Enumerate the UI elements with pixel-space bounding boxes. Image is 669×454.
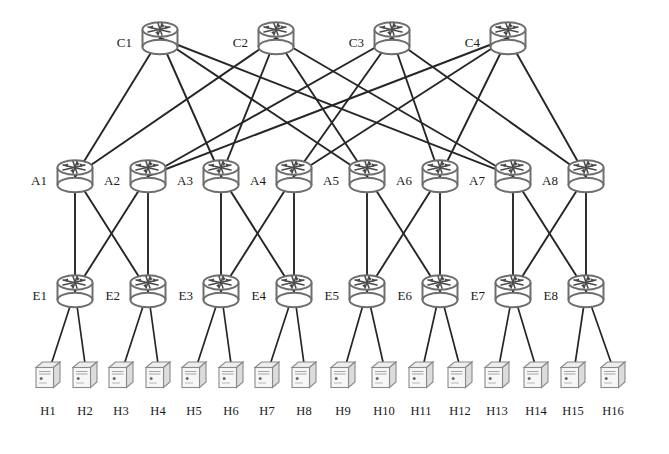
host-label: H5 [186,404,201,418]
edge-switch-label: E1 [33,288,47,303]
edge-switch-label: E6 [398,288,413,303]
host-label: H10 [373,404,395,418]
core-switch-label: C2 [233,35,248,50]
core-switch-label: C3 [349,35,364,50]
core-switch-label: C1 [117,35,132,50]
host-icon [524,362,548,388]
host-label: H14 [525,404,547,418]
edge-switch-label: E4 [252,288,267,303]
aggregation-switch-label: A6 [396,173,412,188]
host-icon [182,362,206,388]
host-icon [219,362,243,388]
aggregation-switch-label: A7 [469,173,485,188]
host-label: H7 [259,404,274,418]
aggregation-switch-label: A5 [323,173,339,188]
host-label: H9 [335,404,350,418]
host-icon [36,362,60,388]
core-switch-label: C4 [465,35,481,50]
host-label: H6 [223,404,238,418]
aggregation-switch-label: A2 [104,173,120,188]
edge-switch-label: E2 [106,288,120,303]
host-icon [409,362,433,388]
host-label: H3 [113,404,128,418]
host-label: H16 [602,404,624,418]
host-icon [561,362,585,388]
host-icon [372,362,396,388]
aggregation-switch-label: A1 [31,173,47,188]
edge-switch-label: E7 [471,288,486,303]
edge-switch-label: E3 [179,288,193,303]
aggregation-switch-label: A4 [250,173,266,188]
host-label: H2 [77,404,92,418]
host-label: H11 [410,404,431,418]
host-label: H8 [296,404,311,418]
host-icon [331,362,355,388]
edge-switch-label: E5 [325,288,339,303]
host-icon [109,362,133,388]
host-label: H4 [150,404,166,418]
host-icon [73,362,97,388]
host-icon [601,362,625,388]
host-icon [255,362,279,388]
network-topology-diagram: C1C2C3C4 A1A2A3A4A5A6A7A8 E1E2E3E4E5E6E7… [0,0,669,454]
host-icon [146,362,170,388]
host-icon [292,362,316,388]
host-label: H15 [562,404,584,418]
host-label: H12 [449,404,471,418]
host-icon [485,362,509,388]
aggregation-switch-label: A3 [177,173,193,188]
host-label: H13 [486,404,508,418]
edge-switch-label: E8 [544,288,558,303]
host-label: H1 [40,404,55,418]
aggregation-switch-label: A8 [542,173,558,188]
host-icon [448,362,472,388]
